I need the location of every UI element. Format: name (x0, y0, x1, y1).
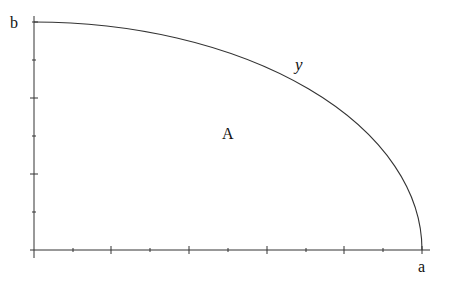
label-b: b (10, 14, 18, 31)
label-a: a (418, 258, 425, 275)
label-y: y (293, 55, 303, 74)
diagram-canvas: b a y A (0, 0, 450, 281)
label-region-a: A (222, 125, 234, 142)
